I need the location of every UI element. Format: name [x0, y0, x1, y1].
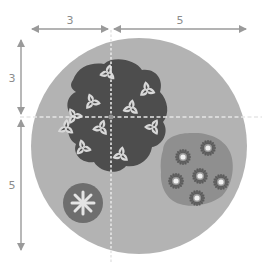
star-plant	[63, 183, 103, 223]
planting-diagram: 3 5 3 5	[0, 0, 272, 276]
dimension-label-left-3: 3	[9, 72, 16, 85]
dimension-label-top-3: 3	[67, 14, 74, 27]
center-point	[109, 115, 114, 120]
dimension-label-top-5: 5	[177, 14, 184, 27]
dimension-label-left-5: 5	[9, 179, 16, 192]
